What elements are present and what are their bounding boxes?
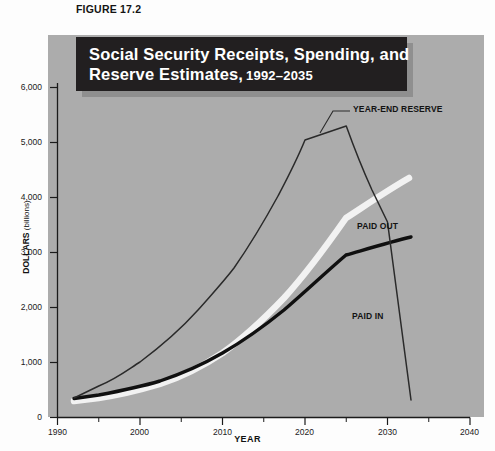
x-axis-title: YEAR	[0, 434, 495, 444]
x-axis-minor-ticks	[99, 418, 429, 423]
figure-container: FIGURE 17.2 Social Security Receipts, Sp…	[0, 0, 495, 451]
chart-svg	[0, 0, 495, 451]
y-tick-label-6000: 6,000	[8, 82, 42, 92]
series-line-year-end-reserve	[74, 126, 411, 400]
y-tick-label-2000: 2,000	[8, 302, 42, 312]
series-label-paid-out: PAID OUT	[357, 221, 398, 231]
series-line-paid-out	[74, 178, 409, 401]
y-axis-title-unit: (billions)	[22, 200, 31, 230]
y-tick-label-5000: 5,000	[8, 137, 42, 147]
y-tick-label-0: 0	[8, 412, 42, 422]
y-tick-label-1000: 1,000	[8, 357, 42, 367]
y-axis-title-main: DOLLARS	[21, 233, 31, 274]
series-label-year-end-reserve: YEAR-END RESERVE	[353, 104, 443, 114]
series-label-paid-in: PAID IN	[352, 311, 384, 321]
y-axis-ticks	[50, 88, 58, 418]
y-axis-title: DOLLARS (billions)	[21, 182, 31, 292]
